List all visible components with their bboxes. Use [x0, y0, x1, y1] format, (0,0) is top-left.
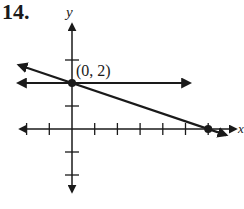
- x-axis-label: x: [237, 121, 244, 136]
- data-point: [204, 125, 212, 133]
- y-axis-label: y: [64, 4, 73, 20]
- data-point: [68, 79, 76, 87]
- point-label: (0, 2): [76, 62, 111, 80]
- coordinate-plane: y x (0, 2): [0, 0, 244, 209]
